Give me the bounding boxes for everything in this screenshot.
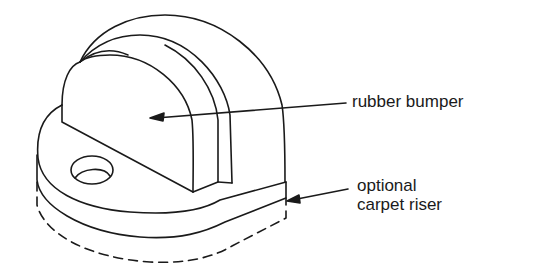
rubber-bumper-arrowhead	[150, 113, 164, 121]
carpet-riser-leader	[292, 189, 348, 200]
carpet-riser-outline	[37, 182, 286, 262]
label-rubber-bumper: rubber bumper	[352, 92, 464, 111]
housing-groove	[80, 35, 232, 183]
screw-hole-inner	[75, 169, 110, 178]
housing-groove-2	[80, 51, 128, 62]
label-carpet-riser: carpet riser	[357, 195, 442, 214]
rubber-bumper-leader	[156, 103, 346, 118]
base-plate-side	[37, 155, 286, 238]
carpet-riser-arrowhead	[287, 195, 300, 203]
door-stop-drawing	[0, 0, 536, 278]
label-optional: optional	[357, 176, 417, 195]
bumper-channel-floor	[218, 182, 232, 183]
rubber-bumper-front-edge	[62, 105, 193, 192]
